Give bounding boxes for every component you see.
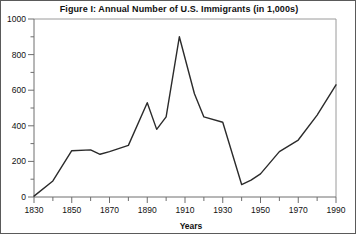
x-tick-label: 1990 — [327, 205, 346, 215]
plot-frame — [34, 19, 336, 197]
x-axis-tick-labels: 1830 1850 1870 1890 1910 1930 1950 1970 … — [25, 205, 346, 215]
x-tick-label: 1830 — [25, 205, 44, 215]
x-axis-title: Years — [180, 221, 203, 231]
x-axis — [34, 197, 336, 203]
x-tick-label: 1870 — [100, 205, 119, 215]
x-tick-label: 1850 — [62, 205, 81, 215]
y-tick-label: 400 — [12, 121, 26, 131]
y-tick-label: 200 — [12, 156, 26, 166]
y-tick-label: 1000 — [7, 14, 26, 24]
y-tick-label: 600 — [12, 85, 26, 95]
x-tick-label: 1950 — [251, 205, 270, 215]
x-tick-label: 1910 — [176, 205, 195, 215]
y-axis — [28, 19, 34, 197]
x-tick-label: 1890 — [138, 205, 157, 215]
y-tick-label: 800 — [12, 50, 26, 60]
y-tick-label: 0 — [21, 192, 26, 202]
figure-container: Figure I: Annual Number of U.S. Immigran… — [0, 0, 356, 234]
data-series-line — [34, 37, 336, 196]
x-tick-label: 1970 — [289, 205, 308, 215]
x-tick-label: 1930 — [213, 205, 232, 215]
line-chart-plot: 1000 800 600 400 200 0 — [1, 1, 356, 234]
y-axis-tick-labels: 1000 800 600 400 200 0 — [7, 14, 26, 202]
